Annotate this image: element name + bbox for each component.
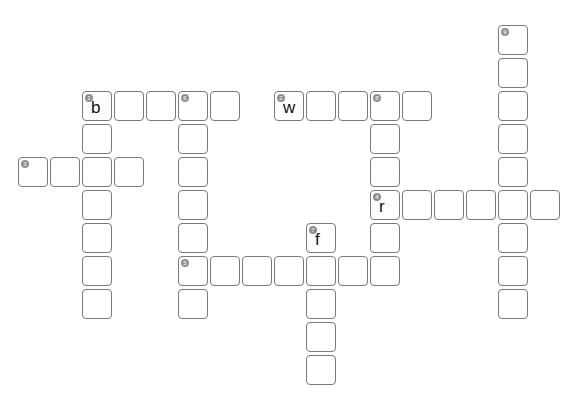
crossword-cell[interactable] xyxy=(82,223,112,253)
crossword-cell[interactable] xyxy=(178,190,208,220)
crossword-cell[interactable] xyxy=(498,58,528,88)
crossword-cell[interactable] xyxy=(306,256,336,286)
cell-letter: f xyxy=(315,230,320,250)
crossword-cell[interactable]: 2w xyxy=(274,91,304,121)
crossword-cell[interactable] xyxy=(178,124,208,154)
crossword-cell[interactable]: 4r xyxy=(370,190,400,220)
crossword-cell[interactable] xyxy=(498,256,528,286)
crossword-cell[interactable] xyxy=(498,289,528,319)
crossword-cell[interactable] xyxy=(82,289,112,319)
cell-letter: w xyxy=(283,98,295,118)
crossword-board: 1b62w834r57f9 xyxy=(0,0,574,404)
crossword-cell[interactable] xyxy=(210,91,240,121)
crossword-cell[interactable] xyxy=(306,322,336,352)
cell-letter: r xyxy=(379,197,385,217)
crossword-cell[interactable] xyxy=(274,256,304,286)
crossword-cell[interactable] xyxy=(370,157,400,187)
crossword-cell[interactable] xyxy=(82,157,112,187)
crossword-cell[interactable] xyxy=(242,256,272,286)
crossword-cell[interactable] xyxy=(178,157,208,187)
cell-letter: b xyxy=(91,98,100,118)
crossword-cell[interactable] xyxy=(178,289,208,319)
crossword-cell[interactable] xyxy=(82,256,112,286)
crossword-cell[interactable] xyxy=(306,91,336,121)
crossword-cell[interactable] xyxy=(530,190,560,220)
crossword-cell[interactable] xyxy=(402,190,432,220)
clue-number-badge: 6 xyxy=(181,94,189,102)
crossword-cell[interactable] xyxy=(306,355,336,385)
crossword-cell[interactable]: 5 xyxy=(178,256,208,286)
crossword-cell[interactable] xyxy=(82,190,112,220)
crossword-cell[interactable]: 3 xyxy=(18,157,48,187)
crossword-cell[interactable] xyxy=(114,157,144,187)
crossword-cell[interactable]: 6 xyxy=(178,91,208,121)
crossword-cell[interactable] xyxy=(178,223,208,253)
clue-number-badge: 3 xyxy=(21,160,29,168)
crossword-cell[interactable] xyxy=(466,190,496,220)
crossword-cell[interactable] xyxy=(338,256,368,286)
crossword-cell[interactable] xyxy=(498,124,528,154)
crossword-cell[interactable]: 1b xyxy=(82,91,112,121)
clue-number-badge: 5 xyxy=(181,259,189,267)
crossword-cell[interactable] xyxy=(114,91,144,121)
clue-number-badge: 8 xyxy=(373,94,381,102)
crossword-cell[interactable] xyxy=(338,91,368,121)
crossword-cell[interactable] xyxy=(498,190,528,220)
crossword-cell[interactable] xyxy=(434,190,464,220)
clue-number-badge: 9 xyxy=(501,28,509,36)
crossword-cell[interactable] xyxy=(370,223,400,253)
crossword-cell[interactable] xyxy=(498,91,528,121)
crossword-cell[interactable] xyxy=(498,223,528,253)
crossword-cell[interactable] xyxy=(370,256,400,286)
crossword-cell[interactable] xyxy=(82,124,112,154)
crossword-cell[interactable]: 9 xyxy=(498,25,528,55)
crossword-cell[interactable] xyxy=(50,157,80,187)
crossword-cell[interactable] xyxy=(146,91,176,121)
crossword-cell[interactable]: 8 xyxy=(370,91,400,121)
crossword-cell[interactable] xyxy=(498,157,528,187)
crossword-cell[interactable] xyxy=(402,91,432,121)
crossword-cell[interactable]: 7f xyxy=(306,223,336,253)
crossword-cell[interactable] xyxy=(210,256,240,286)
crossword-cell[interactable] xyxy=(306,289,336,319)
crossword-cell[interactable] xyxy=(370,124,400,154)
